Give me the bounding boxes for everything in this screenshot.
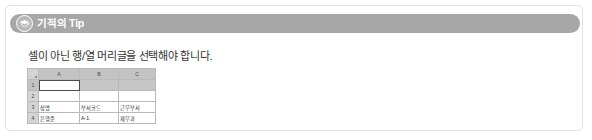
column-header-row: A B C xyxy=(28,69,156,80)
cell-b3[interactable]: 부서코드 xyxy=(80,102,119,113)
row-header-1[interactable]: 1 xyxy=(28,80,39,91)
tip-card: 기적의 Tip 셀이 아닌 행/열 머리글을 선택해야 합니다. A B C 1 xyxy=(5,5,583,131)
tip-body-text: 셀이 아닌 행/열 머리글을 선택해야 합니다. xyxy=(28,47,212,63)
cell-a4[interactable]: 은행준 xyxy=(39,113,80,124)
table-row: 1 xyxy=(28,80,156,91)
row-header-2[interactable]: 2 xyxy=(28,91,39,102)
cell-b1[interactable] xyxy=(80,80,119,91)
cell-a2[interactable] xyxy=(39,91,80,102)
table-row: 3 성명 부서코드 근무부서 xyxy=(28,102,156,113)
row-header-3[interactable]: 3 xyxy=(28,102,39,113)
tip-title: 기적의 Tip xyxy=(37,18,84,29)
cell-c1[interactable] xyxy=(119,80,156,91)
cell-b4[interactable]: A-1 xyxy=(80,113,119,124)
column-header-a[interactable]: A xyxy=(39,69,80,80)
table-row: 4 은행준 A-1 재무과 xyxy=(28,113,156,124)
cell-c2[interactable] xyxy=(119,91,156,102)
spreadsheet-grid[interactable]: A B C 1 2 3 xyxy=(27,68,156,124)
cell-c3[interactable]: 근무부서 xyxy=(119,102,156,113)
table-row: 2 xyxy=(28,91,156,102)
tip-header-bar: 기적의 Tip xyxy=(10,14,580,33)
column-header-b[interactable]: B xyxy=(80,69,119,80)
cell-a3[interactable]: 성명 xyxy=(39,102,80,113)
tip-screenshot: 기적의 Tip 셀이 아닌 행/열 머리글을 선택해야 합니다. A B C 1 xyxy=(0,0,592,140)
graduation-cap-icon xyxy=(16,15,33,32)
column-header-c[interactable]: C xyxy=(119,69,156,80)
select-all-corner[interactable] xyxy=(28,69,39,80)
row-header-4[interactable]: 4 xyxy=(28,113,39,124)
cell-a1[interactable] xyxy=(39,80,80,91)
cell-c4[interactable]: 재무과 xyxy=(119,113,156,124)
cell-b2[interactable] xyxy=(80,91,119,102)
